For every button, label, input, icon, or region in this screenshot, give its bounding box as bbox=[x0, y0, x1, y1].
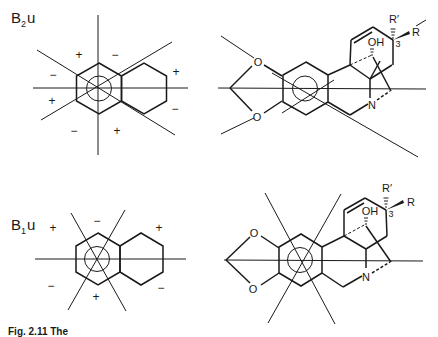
sign: + bbox=[48, 94, 55, 108]
sign: + bbox=[155, 221, 162, 235]
dashed-bond bbox=[377, 91, 390, 100]
bond bbox=[350, 40, 351, 65]
dashed-bond bbox=[372, 262, 390, 273]
sign: + bbox=[49, 221, 56, 235]
bond bbox=[322, 236, 344, 247]
oxygen-atom: O bbox=[254, 56, 263, 68]
hashed-wedge-r-prime bbox=[384, 198, 389, 207]
nodal-line-diag-down bbox=[37, 50, 175, 135]
nitrogen-atom: N bbox=[368, 99, 376, 111]
b1u-panel: B1u + − + − + − O O bbox=[11, 182, 423, 324]
sign: − bbox=[47, 279, 54, 293]
sign: − bbox=[49, 68, 56, 82]
r-substituent: R bbox=[412, 26, 420, 38]
oxygen-atom: O bbox=[249, 283, 258, 295]
sign: − bbox=[171, 102, 178, 116]
hashed-wedge bbox=[364, 218, 368, 224]
sign: + bbox=[172, 65, 179, 79]
figure-caption: Fig. 2.11 The bbox=[8, 326, 68, 337]
nodal-line-diag-left-lower bbox=[221, 118, 254, 134]
sign: − bbox=[93, 214, 100, 228]
nodal-line-diag-left-upper bbox=[221, 36, 254, 58]
nitrogen-atom: N bbox=[362, 271, 370, 283]
bond bbox=[226, 260, 250, 283]
bond bbox=[343, 276, 362, 287]
bond bbox=[322, 273, 343, 287]
oxygen-atom: O bbox=[253, 111, 262, 123]
bond bbox=[386, 210, 387, 236]
b2u-naphthalene bbox=[33, 15, 188, 155]
hydroxyl-group: OH bbox=[368, 36, 385, 48]
b1u-alkaloid-structure: O O OH N bbox=[224, 182, 423, 324]
hydroxyl-group: OH bbox=[362, 205, 379, 217]
bond bbox=[373, 57, 391, 91]
bond bbox=[264, 65, 282, 76]
dashed-bond bbox=[350, 55, 372, 65]
bond bbox=[344, 236, 366, 249]
bond bbox=[350, 65, 370, 79]
bond bbox=[226, 237, 250, 260]
bond bbox=[230, 66, 252, 88]
r-substituent: R bbox=[407, 196, 415, 208]
sign: − bbox=[157, 281, 164, 295]
b1u-label: B1u bbox=[11, 216, 35, 236]
b2u-alkaloid-structure: O O OH bbox=[218, 13, 426, 157]
nodal-line-horizontal bbox=[224, 260, 423, 261]
bond bbox=[261, 236, 279, 248]
oxygen-atom: O bbox=[250, 227, 259, 239]
c3-locant: 3 bbox=[388, 209, 393, 219]
nodal-line-diag-down bbox=[265, 193, 335, 324]
nodal-line-diag-down bbox=[272, 73, 418, 157]
b2u-signs: + − − + + − − + bbox=[48, 48, 179, 138]
hashed-wedge bbox=[370, 49, 374, 55]
dashed-bond bbox=[344, 224, 366, 236]
r-prime-substituent: R′ bbox=[382, 182, 392, 194]
bond bbox=[261, 273, 279, 285]
b2u-panel: B2u + − − + + − − + bbox=[11, 9, 426, 157]
c3-locant: 3 bbox=[395, 39, 400, 49]
bond bbox=[264, 101, 282, 113]
b1u-naphthalene bbox=[35, 210, 186, 311]
bond bbox=[366, 236, 387, 249]
sign: + bbox=[92, 290, 99, 304]
nodal-line-diag-up bbox=[41, 42, 172, 120]
sign: − bbox=[70, 124, 77, 138]
r-prime-substituent: R′ bbox=[389, 13, 399, 25]
bond bbox=[230, 88, 252, 111]
sign: + bbox=[75, 48, 82, 62]
sign: + bbox=[113, 124, 120, 138]
b2u-label: B2u bbox=[11, 9, 35, 29]
bond bbox=[350, 104, 368, 115]
sign: − bbox=[111, 48, 118, 62]
bond bbox=[328, 102, 350, 115]
